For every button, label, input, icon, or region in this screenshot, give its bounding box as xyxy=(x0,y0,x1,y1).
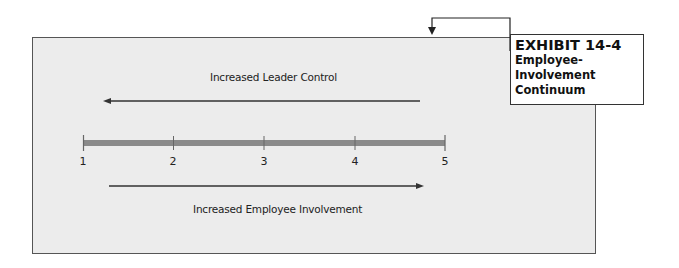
employee-involvement-arrow-icon xyxy=(109,183,424,189)
scale-tick-2: 2 xyxy=(170,155,177,168)
bottom-arrow-label: Increased Employee Involvement xyxy=(193,203,362,215)
scale-tick-5: 5 xyxy=(442,155,449,168)
exhibit-number: EXHIBIT 14-4 xyxy=(515,37,639,53)
scale-tick-3: 3 xyxy=(261,155,268,168)
exhibit-subtitle-line-2: Involvement xyxy=(515,68,639,83)
leader-control-arrow-icon xyxy=(103,98,420,104)
exhibit-subtitle-line-1: Employee- xyxy=(515,53,639,68)
top-arrow-label: Increased Leader Control xyxy=(210,71,337,83)
connector-arrow xyxy=(428,18,510,51)
exhibit-caption-box: EXHIBIT 14-4 Employee- Involvement Conti… xyxy=(510,34,644,105)
scale-tick-1: 1 xyxy=(80,155,87,168)
continuum-scale xyxy=(83,135,445,151)
scale-tick-4: 4 xyxy=(352,155,359,168)
exhibit-subtitle-line-3: Continuum xyxy=(515,83,639,98)
